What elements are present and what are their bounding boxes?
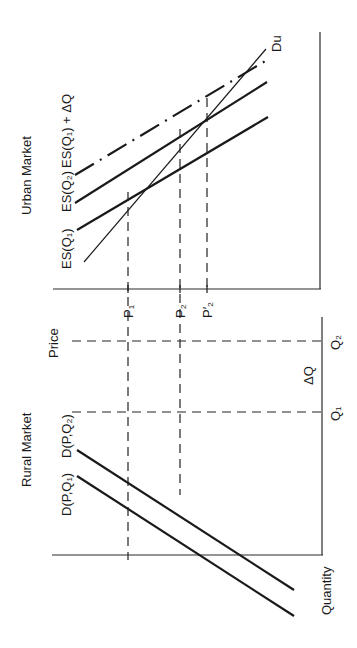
es-q1-curve xyxy=(77,117,268,230)
quantity-axis-label: Quantity xyxy=(319,566,334,615)
rural-market-title: Rural Market xyxy=(19,412,34,487)
es-q2-curve xyxy=(75,82,267,203)
du-demand-curve xyxy=(84,49,266,262)
q1-label: Q₁ xyxy=(328,406,343,421)
du-label: Du xyxy=(269,35,284,52)
urban-market-title: Urban Market xyxy=(19,136,34,215)
d-pq2-label: D(P,Q₂) xyxy=(59,414,74,458)
es-q1-label: ES(Q₁) xyxy=(59,229,74,270)
p2-label: P₂ xyxy=(173,304,188,318)
es-q1-plus-dq-curve xyxy=(75,60,267,175)
rural-market-panel: Rural Market D(P,Q₁) D(P,Q₂) Quantity xyxy=(19,317,334,616)
es-q2-label: ES(Q₂) xyxy=(59,171,74,212)
d-pq1-curve xyxy=(77,476,294,616)
quantity-markers: Price Q₂ Q₁ ΔQ xyxy=(46,328,343,421)
q2-label: Q₂ xyxy=(328,335,343,350)
p2-prime-label: P′₂ xyxy=(200,302,215,318)
d-pq2-curve xyxy=(77,450,294,590)
es-q1-plus-dq-label: ES(Q₁) + ΔQ xyxy=(59,94,74,168)
d-pq1-label: D(P,Q₁) xyxy=(59,473,74,516)
p1-label: P₁ xyxy=(121,304,136,318)
rural-urban-market-diagram: Urban Market ES(Q₁) ES(Q₂) ES(Q₁) + ΔQ D… xyxy=(0,0,357,648)
delta-q-label: ΔQ xyxy=(301,366,316,385)
price-axis-label: Price xyxy=(46,328,61,358)
